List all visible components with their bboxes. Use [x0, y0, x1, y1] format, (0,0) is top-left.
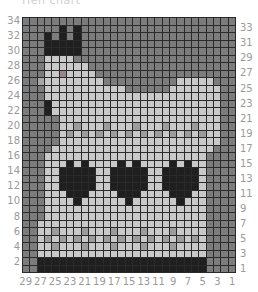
chart-cell	[170, 93, 176, 100]
chart-cell	[155, 251, 161, 258]
chart-cell	[141, 146, 147, 153]
chart-cell	[52, 56, 58, 63]
chart-cell	[185, 93, 191, 100]
chart-cell	[214, 161, 220, 168]
chart-cell	[30, 86, 36, 93]
chart-cell	[89, 93, 95, 100]
chart-cell	[96, 236, 102, 243]
chart-cell	[148, 101, 154, 108]
chart-cell	[221, 101, 227, 108]
chart-cell	[207, 93, 213, 100]
chart-cell	[45, 153, 51, 160]
chart-cell	[82, 71, 88, 78]
chart-cell	[23, 18, 29, 25]
chart-cell	[52, 168, 58, 175]
column-label: 29	[19, 277, 33, 287]
chart-cell	[118, 93, 124, 100]
chart-cell	[118, 258, 124, 265]
chart-cell	[45, 93, 51, 100]
chart-cell	[96, 86, 102, 93]
chart-cell	[89, 48, 95, 55]
chart-cell	[52, 138, 58, 145]
chart-cell	[89, 18, 95, 25]
chart-cell	[74, 266, 80, 273]
row-label-left: 28	[2, 61, 20, 71]
chart-cell	[199, 131, 205, 138]
chart-cell	[111, 71, 117, 78]
chart-cell	[148, 138, 154, 145]
chart-cell	[89, 191, 95, 198]
chart-cell	[207, 71, 213, 78]
chart-cell	[141, 266, 147, 273]
chart-cell	[118, 41, 124, 48]
chart-cell	[89, 146, 95, 153]
chart-cell	[192, 228, 198, 235]
chart-cell	[82, 101, 88, 108]
chart-cell	[74, 18, 80, 25]
chart-cell	[23, 213, 29, 220]
chart-cell	[229, 71, 235, 78]
row-label-left: 24	[2, 91, 20, 101]
chart-cell	[199, 138, 205, 145]
chart-cell	[207, 101, 213, 108]
chart-cell	[133, 266, 139, 273]
chart-cell	[67, 153, 73, 160]
chart-cell	[170, 221, 176, 228]
chart-cell	[185, 71, 191, 78]
chart-cell	[141, 71, 147, 78]
chart-cell	[177, 168, 183, 175]
chart-cell	[207, 123, 213, 130]
chart-cell	[126, 71, 132, 78]
row-label-right: 17	[240, 144, 258, 154]
chart-cell	[111, 161, 117, 168]
chart-cell	[126, 266, 132, 273]
chart-cell	[229, 48, 235, 55]
chart-cell	[118, 161, 124, 168]
chart-cell	[82, 86, 88, 93]
chart-cell	[177, 71, 183, 78]
chart-cell	[67, 138, 73, 145]
chart-cell	[207, 138, 213, 145]
chart-cell	[185, 86, 191, 93]
chart-cell	[52, 108, 58, 115]
chart-cell	[104, 266, 110, 273]
chart-cell	[23, 146, 29, 153]
chart-cell	[60, 183, 66, 190]
chart-cell	[52, 198, 58, 205]
chart-cell	[163, 266, 169, 273]
chart-cell	[199, 258, 205, 265]
chart-cell	[111, 198, 117, 205]
chart-cell	[221, 228, 227, 235]
chart-cell	[104, 243, 110, 250]
chart-cell	[30, 161, 36, 168]
row-label-left: 6	[2, 227, 20, 237]
chart-cell	[30, 206, 36, 213]
chart-cell	[89, 168, 95, 175]
chart-cell	[38, 236, 44, 243]
chart-cell	[221, 168, 227, 175]
chart-cell	[163, 228, 169, 235]
chart-cell	[23, 26, 29, 33]
chart-cell	[229, 176, 235, 183]
chart-cell	[38, 116, 44, 123]
chart-cell	[89, 258, 95, 265]
chart-cell	[96, 266, 102, 273]
chart-cell	[214, 56, 220, 63]
chart-cell	[207, 251, 213, 258]
chart-cell	[192, 243, 198, 250]
chart-cell	[148, 33, 154, 40]
chart-cell	[163, 131, 169, 138]
chart-cell	[104, 71, 110, 78]
chart-cell	[111, 48, 117, 55]
chart-cell	[82, 123, 88, 130]
chart-cell	[229, 221, 235, 228]
chart-cell	[141, 161, 147, 168]
chart-cell	[207, 56, 213, 63]
chart-cell	[170, 86, 176, 93]
chart-cell	[67, 63, 73, 70]
chart-cell	[30, 41, 36, 48]
chart-cell	[229, 168, 235, 175]
chart-cell	[52, 236, 58, 243]
chart-cell	[52, 153, 58, 160]
chart-cell	[192, 18, 198, 25]
